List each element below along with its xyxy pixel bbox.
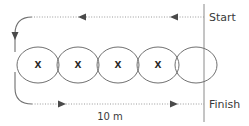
cone-3: X <box>97 47 139 83</box>
diagram-canvas: X X X X Start Finish 10 m <box>0 0 249 126</box>
cone-1: X <box>17 47 59 83</box>
cone-4: X <box>137 47 179 83</box>
left-upper-turn-path <box>15 17 32 52</box>
start-label: Start <box>209 11 237 24</box>
left-lower-turn-path <box>15 72 32 104</box>
top-arrowhead-right <box>170 14 178 21</box>
cone-2: X <box>57 47 99 83</box>
left-path-arrowhead-down <box>12 32 19 40</box>
top-travel-track <box>32 14 204 21</box>
cone-5 <box>175 47 217 83</box>
bottom-travel-track <box>32 101 204 108</box>
cone-mark-2: X <box>75 60 82 70</box>
slalom-course-diagram: X X X X Start Finish 10 m <box>0 0 249 126</box>
bottom-arrowhead-right <box>170 101 178 108</box>
cone-mark-4: X <box>155 60 162 70</box>
cone-circle-5 <box>175 47 217 83</box>
cone-mark-1: X <box>35 60 42 70</box>
bottom-arrowhead-left <box>58 101 66 108</box>
top-arrowhead-left <box>78 14 86 21</box>
finish-label: Finish <box>209 98 240 111</box>
cone-group: X X X X <box>17 47 217 83</box>
cone-mark-3: X <box>115 60 122 70</box>
distance-label: 10 m <box>97 111 123 122</box>
